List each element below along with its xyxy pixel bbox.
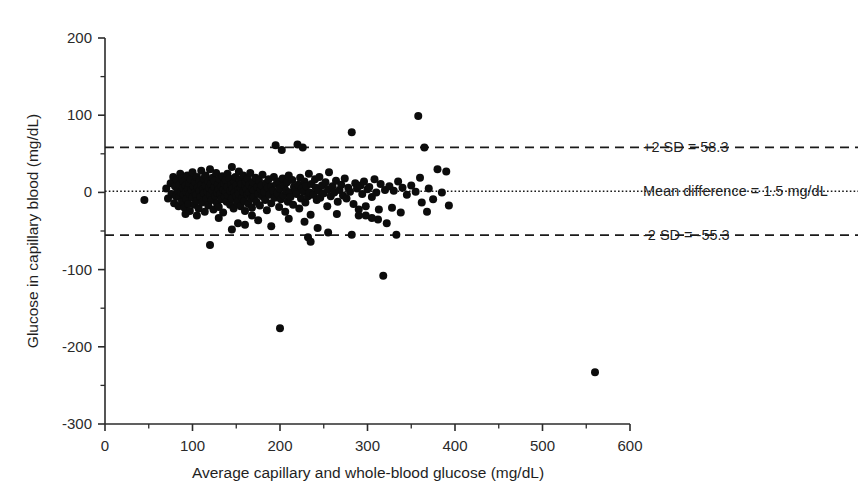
bland-altman-chart: 01002003004005006002001000-100-200-300 +… [0, 0, 865, 496]
data-point [278, 146, 286, 154]
data-point [334, 198, 342, 206]
data-point [372, 188, 380, 196]
data-point [414, 112, 422, 120]
data-point [346, 188, 354, 196]
data-point [333, 210, 341, 218]
data-point [267, 222, 275, 230]
data-point [399, 184, 407, 192]
data-point [322, 178, 330, 186]
annotation-label: -2 SD = -55.3 [643, 227, 730, 243]
x-tick-label: 200 [267, 437, 292, 454]
x-axis-title: Average capillary and whole-blood glucos… [192, 464, 544, 481]
data-point [182, 210, 190, 218]
data-point [416, 174, 424, 182]
x-tick-label: 600 [617, 437, 642, 454]
x-tick-label: 500 [530, 437, 555, 454]
data-point [241, 207, 249, 215]
data-point [403, 191, 411, 199]
data-point [276, 324, 284, 332]
data-point [314, 224, 322, 232]
data-point [425, 185, 433, 193]
data-point [307, 238, 315, 246]
y-tick-label: 0 [84, 183, 92, 200]
data-point [228, 163, 236, 171]
data-point [228, 225, 236, 233]
data-point [355, 212, 363, 220]
data-point [234, 219, 242, 227]
y-tick-label: -300 [62, 415, 92, 432]
data-point [140, 196, 148, 204]
y-tick-label: -200 [62, 338, 92, 355]
data-point [420, 144, 428, 152]
data-point [341, 175, 349, 183]
data-point [305, 170, 313, 178]
data-point [365, 183, 373, 191]
data-point [325, 168, 333, 176]
x-tick-label: 0 [101, 437, 109, 454]
data-point [301, 218, 309, 226]
data-point [263, 206, 271, 214]
data-point [348, 231, 356, 239]
data-point [315, 173, 323, 181]
annotation-label: +2 SD = 58.3 [643, 139, 728, 155]
chart-canvas: 01002003004005006002001000-100-200-300 +… [0, 0, 865, 496]
data-point [299, 144, 307, 152]
data-point [375, 205, 383, 213]
data-point [281, 208, 289, 216]
x-tick-label: 100 [180, 437, 205, 454]
data-point [383, 219, 391, 227]
data-point [348, 128, 356, 136]
data-point [362, 202, 370, 210]
data-point [193, 212, 201, 220]
data-point [206, 241, 214, 249]
data-point [285, 215, 293, 223]
data-point [418, 198, 426, 206]
data-point [429, 195, 437, 203]
y-tick-label: -100 [62, 261, 92, 278]
x-tick-label: 400 [442, 437, 467, 454]
y-tick-label: 200 [67, 29, 92, 46]
data-point [248, 212, 256, 220]
data-point [215, 214, 223, 222]
y-tick-label: 100 [67, 106, 92, 123]
data-point [445, 202, 453, 210]
y-axis-title: Glucose in capillary blood (mg/dL) [24, 114, 41, 348]
chart-background [0, 0, 865, 496]
data-point [392, 231, 400, 239]
data-point [241, 221, 249, 229]
data-point [438, 188, 446, 196]
data-point [434, 165, 442, 173]
data-point [442, 168, 450, 176]
data-point [388, 204, 396, 212]
data-point [307, 211, 315, 219]
x-tick-label: 300 [355, 437, 380, 454]
data-point [412, 188, 420, 196]
annotation-label: Mean difference = 1.5 mg/dL [643, 183, 828, 199]
data-point [390, 187, 398, 195]
data-point [343, 195, 351, 203]
data-point [379, 272, 387, 280]
data-point [423, 208, 431, 216]
data-point [323, 202, 331, 210]
data-point [324, 229, 332, 237]
data-point [368, 214, 376, 222]
data-point [397, 208, 405, 216]
data-point [295, 205, 303, 213]
data-point [591, 368, 599, 376]
